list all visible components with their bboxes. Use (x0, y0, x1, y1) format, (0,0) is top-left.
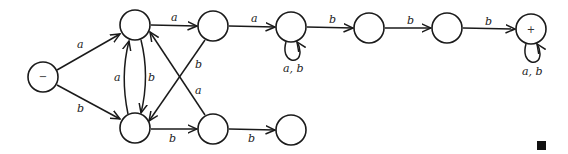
edge-label: b (485, 15, 492, 28)
edge-t1-b1 (141, 40, 146, 113)
edge-label: a (77, 38, 84, 51)
edge-label: a (114, 71, 121, 84)
edge-t1-t2 (151, 25, 197, 26)
edge-label: b (148, 71, 155, 84)
state-t5 (432, 13, 462, 43)
edge-b2-t1 (150, 32, 205, 115)
edge-label: b (329, 13, 336, 26)
edge-label: b (248, 132, 255, 145)
edge-b1-t1 (124, 41, 129, 114)
edge-t5-final (463, 28, 515, 29)
state-b3 (276, 115, 306, 145)
state-b1 (120, 113, 150, 143)
edge-start-b1 (57, 85, 120, 119)
state-t1 (120, 10, 150, 40)
edge-label: a, b (522, 65, 543, 78)
state-t2 (198, 11, 228, 41)
edge-label: a (195, 84, 202, 97)
edge-label: a (251, 12, 258, 25)
state-b2 (198, 114, 228, 144)
final-marker: + (527, 24, 535, 35)
end-mark-square-icon (537, 141, 546, 150)
state-t4 (354, 13, 384, 43)
edge-label: b (195, 58, 202, 71)
edge-t3-loop (285, 42, 300, 60)
edge-t2-t3 (229, 26, 275, 27)
edge-b2-b3 (229, 129, 275, 130)
edge-label: a (171, 11, 178, 24)
edge-final-loop (525, 44, 540, 62)
automaton-diagram: a b a b a b a b b a a, b b (0, 0, 568, 154)
edge-t3-t4 (307, 27, 353, 28)
edge-start-t1 (57, 34, 120, 70)
state-t3 (276, 12, 306, 42)
start-marker: − (39, 71, 47, 82)
edge-label: b (77, 102, 84, 115)
edge-label: a, b (283, 62, 304, 75)
edge-label: b (169, 132, 176, 145)
edge-t2-b1 (149, 40, 205, 121)
edge-label: b (407, 14, 414, 27)
nodes: − + (28, 10, 546, 145)
